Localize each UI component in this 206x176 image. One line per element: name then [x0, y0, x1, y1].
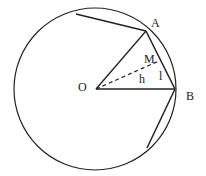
label-h: h	[139, 72, 145, 86]
polygon-side-upper	[76, 14, 146, 31]
label-m: M	[144, 52, 155, 66]
label-l: l	[159, 69, 163, 83]
label-a: A	[151, 16, 160, 30]
geometry-diagram: A B O M h l	[0, 0, 206, 176]
label-o: O	[78, 80, 87, 94]
label-b: B	[186, 89, 194, 103]
